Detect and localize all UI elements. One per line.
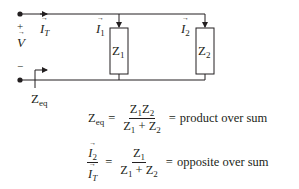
total-current-label: IT: [40, 22, 49, 35]
equals-sign: =: [108, 111, 115, 126]
current-divider-equation: I2 IT = Z1 Z1 + Z2 = opposite over sum: [87, 143, 269, 182]
branch1-current-label: I1: [96, 22, 105, 35]
product-over-sum-fraction: Z1Z2 Z1 + Z2: [122, 103, 162, 134]
z2-label: Z2: [198, 44, 210, 57]
equals-sign: =: [166, 155, 173, 170]
voltage-label: V: [17, 36, 25, 49]
minus-sign: −: [17, 61, 23, 72]
z1-label: Z1: [112, 44, 124, 57]
product-over-sum-text: product over sum: [180, 111, 267, 126]
zeq-equation: Zeq = Z1Z2 Z1 + Z2 = product over sum: [88, 103, 267, 134]
zeq-label: Zeq: [31, 92, 47, 105]
current-ratio-fraction: I2 IT: [87, 143, 98, 182]
zeq-lhs: Zeq: [88, 111, 104, 126]
opposite-over-sum-text: opposite over sum: [177, 155, 269, 170]
zeq-arrow-icon: [35, 70, 47, 88]
equals-sign: =: [169, 111, 176, 126]
branch2-current-label: I2: [181, 22, 190, 35]
opposite-over-sum-fraction: Z1 Z1 + Z2: [119, 147, 159, 178]
equals-sign: =: [105, 155, 112, 170]
